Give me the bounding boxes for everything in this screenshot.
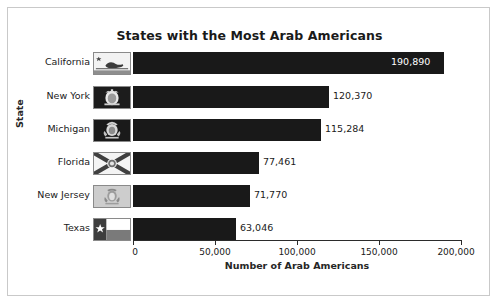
bar-row-florida: Florida 77,461 (0, 151, 499, 175)
x-tick-label-200000: 200,000 (437, 247, 474, 257)
bar-florida (133, 152, 259, 174)
california-flag-icon (93, 52, 131, 75)
category-label-california: California (0, 56, 90, 67)
chart-title: States with the Most Arab Americans (0, 28, 499, 43)
new-york-flag-icon (93, 86, 131, 109)
bar-row-texas: Texas 63,046 (0, 217, 499, 241)
x-tick-label-0: 0 (132, 247, 138, 257)
x-axis-label: Number of Arab Americans (133, 260, 461, 271)
bar-new-york (133, 86, 329, 108)
bar-value-new-york: 120,370 (333, 90, 372, 101)
x-tick-0 (133, 240, 134, 245)
bar-value-new-jersey: 71,770 (254, 189, 287, 200)
florida-flag-icon (93, 152, 131, 175)
category-label-michigan: Michigan (0, 123, 90, 134)
texas-flag-icon (93, 218, 131, 241)
bar-michigan (133, 119, 321, 141)
new-jersey-flag-icon (93, 185, 131, 208)
bar-new-jersey (133, 185, 250, 207)
bar-value-texas: 63,046 (240, 222, 273, 233)
bar-row-california: California 190,890 (0, 51, 499, 75)
category-label-new-york: New York (0, 90, 90, 101)
category-label-florida: Florida (0, 156, 90, 167)
chart-figure: States with the Most Arab Americans Stat… (0, 0, 499, 304)
category-label-texas: Texas (0, 222, 90, 233)
x-tick-200000 (461, 240, 462, 245)
x-tick-50000 (215, 240, 216, 245)
michigan-flag-icon (93, 119, 131, 142)
x-tick-label-100000: 100,000 (278, 247, 315, 257)
bar-texas (133, 218, 236, 240)
x-tick-150000 (379, 240, 380, 245)
bar-row-michigan: Michigan 115,284 (0, 118, 499, 142)
x-tick-label-150000: 150,000 (360, 247, 397, 257)
bar-value-michigan: 115,284 (325, 123, 364, 134)
bar-row-new-jersey: New Jersey 71,770 (0, 184, 499, 208)
x-tick-label-50000: 50,000 (199, 247, 231, 257)
bar-value-florida: 77,461 (263, 156, 296, 167)
x-tick-100000 (297, 240, 298, 245)
bar-row-new-york: New York 120,370 (0, 85, 499, 109)
category-label-new-jersey: New Jersey (0, 189, 90, 200)
bar-value-california: 190,890 (391, 56, 430, 67)
